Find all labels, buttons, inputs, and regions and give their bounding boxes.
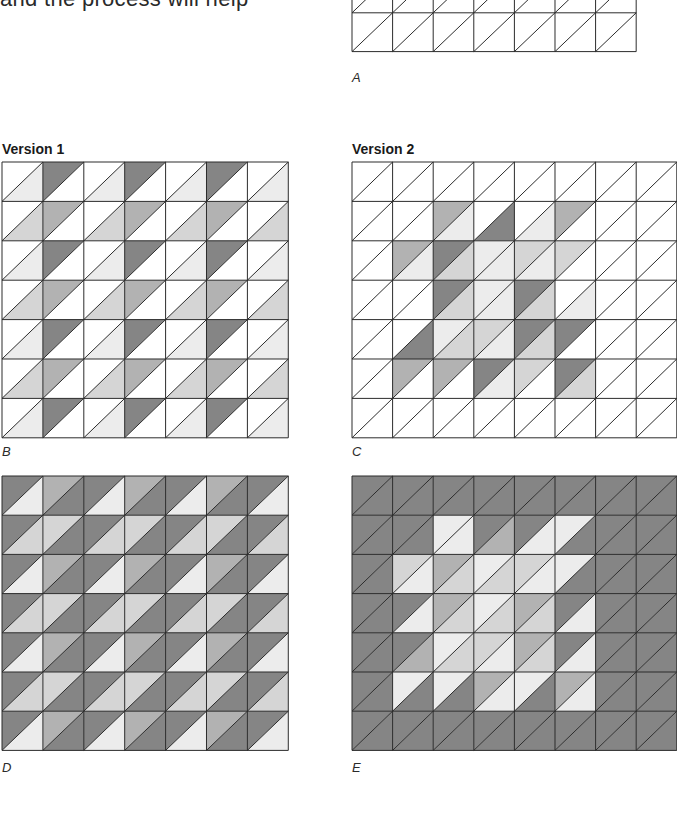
figure-label-a: A bbox=[352, 70, 361, 85]
grid-figure-c bbox=[352, 162, 677, 438]
grid-figure-d bbox=[2, 476, 288, 750]
figure-label-e: E bbox=[352, 760, 361, 775]
intro-text: and the process will help bbox=[0, 0, 248, 12]
version-1-title: Version 1 bbox=[2, 141, 64, 157]
figure-label-d: D bbox=[2, 760, 11, 775]
grid-figure-b bbox=[2, 162, 288, 438]
figure-label-c: C bbox=[352, 444, 361, 459]
version-2-title: Version 2 bbox=[352, 141, 414, 157]
figure-label-b: B bbox=[2, 444, 11, 459]
grid-figure-e bbox=[352, 476, 677, 750]
grid-figure-a bbox=[352, 0, 636, 52]
